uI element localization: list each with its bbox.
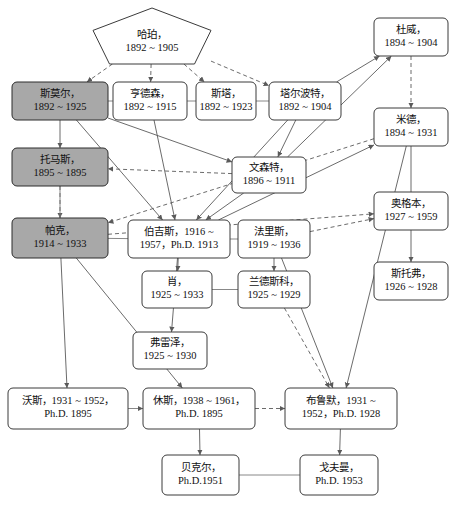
- node-label-starr-line2: 1892 ~ 1923: [200, 101, 253, 112]
- lineage-diagram: 哈珀，1892 ~ 1905斯莫尔，1892 ~ 1925亨德森，1892 ~ …: [0, 0, 457, 508]
- node-wirth[interactable]: 沃斯，1931 ~ 1952，Ph.D. 1895: [8, 388, 128, 429]
- node-vincent[interactable]: 文森特，1896 ~ 1911: [232, 157, 306, 193]
- node-label-faris-line2: 1919 ~ 1936: [248, 239, 301, 250]
- node-label-park-line1: 帕克，: [45, 224, 75, 236]
- node-label-talbot-line2: 1892 ~ 1904: [279, 101, 333, 112]
- node-talbot[interactable]: 塔尔波特，1892 ~ 1904: [269, 82, 341, 120]
- node-label-blumer-line2: 1952，Ph.D. 1928: [302, 408, 381, 419]
- node-label-henderson-line2: 1892 ~ 1915: [124, 101, 177, 112]
- node-label-stouffer-line1: 斯托弗，: [391, 267, 431, 279]
- node-label-dewey-line1: 杜威，: [396, 23, 426, 35]
- node-faris[interactable]: 法里斯，1919 ~ 1936: [238, 220, 310, 258]
- node-label-becker-line1: 贝克尔，: [181, 461, 221, 473]
- node-haper[interactable]: 哈珀，1892 ~ 1905: [93, 8, 211, 64]
- node-starr[interactable]: 斯塔，1892 ~ 1923: [196, 82, 256, 120]
- node-label-thomas-line2: 1895 ~ 1895: [34, 167, 87, 178]
- edge-haper-to-henderson: [151, 64, 152, 82]
- node-label-shaw-line1: 肖，: [167, 275, 187, 287]
- node-layer: 哈珀，1892 ~ 1905斯莫尔，1892 ~ 1925亨德森，1892 ~ …: [8, 8, 448, 495]
- node-label-dewey-line2: 1894 ~ 1904: [385, 37, 439, 48]
- node-blumer[interactable]: 布鲁默，1931 ~1952，Ph.D. 1928: [285, 388, 397, 429]
- node-label-haper-line1: 哈珀，: [137, 28, 167, 40]
- node-landesco[interactable]: 兰德斯科，1925 ~ 1929: [238, 271, 310, 308]
- edge-haper-to-starr: [184, 64, 205, 82]
- node-label-wirth-line2: Ph.D. 1895: [44, 408, 92, 419]
- node-label-small-line2: 1892 ~ 1925: [34, 101, 87, 112]
- node-mead[interactable]: 米德，1894 ~ 1931: [374, 108, 448, 146]
- node-label-haper-line2: 1892 ~ 1905: [126, 42, 179, 53]
- edge-talbot-to-dewey: [337, 56, 380, 82]
- node-ogburn[interactable]: 奥格本，1927 ~ 1959: [374, 192, 448, 230]
- node-label-mead-line2: 1894 ~ 1931: [385, 127, 438, 138]
- edge-haper-to-small: [87, 64, 113, 82]
- edge-hughes-to-becker: [200, 429, 201, 455]
- node-label-frazier-line1: 弗雷泽，: [150, 336, 190, 348]
- node-dewey[interactable]: 杜威，1894 ~ 1904: [374, 18, 448, 56]
- node-label-stouffer-line2: 1926 ~ 1928: [385, 281, 438, 292]
- node-label-ogburn-line1: 奥格本，: [391, 197, 431, 209]
- node-label-burgess-line2: 1957，Ph.D. 1913: [140, 239, 219, 250]
- node-shaw[interactable]: 肖，1925 ~ 1933: [142, 271, 212, 308]
- node-label-ogburn-line2: 1927 ~ 1959: [385, 211, 438, 222]
- node-label-faris-line1: 法里斯，: [254, 225, 294, 237]
- node-label-henderson-line1: 亨德森，: [130, 87, 170, 99]
- node-small[interactable]: 斯莫尔，1892 ~ 1925: [12, 82, 108, 120]
- node-label-hughes-line1: 休斯，1938 ~ 1961，: [153, 394, 246, 406]
- node-label-landesco-line2: 1925 ~ 1929: [248, 289, 301, 300]
- node-hughes[interactable]: 休斯，1938 ~ 1961，Ph.D. 1895: [143, 388, 255, 429]
- node-label-wirth-line1: 沃斯，1931 ~ 1952，: [22, 394, 115, 406]
- node-label-hughes-line2: Ph.D. 1895: [175, 408, 223, 419]
- node-label-blumer-line1: 布鲁默，1931 ~: [306, 394, 376, 406]
- node-label-burgess-line1: 伯吉斯，1916 ~: [144, 225, 214, 237]
- node-thomas[interactable]: 托马斯，1895 ~ 1895: [12, 148, 108, 186]
- edge-vincent-to-burgess: [206, 193, 244, 220]
- node-stouffer[interactable]: 斯托弗，1926 ~ 1928: [374, 262, 448, 300]
- node-label-talbot-line1: 塔尔波特，: [280, 87, 330, 99]
- node-label-becker-line2: Ph.D.1951: [178, 475, 223, 486]
- node-park[interactable]: 帕克，1914 ~ 1933: [12, 218, 108, 258]
- node-label-vincent-line1: 文森特，: [249, 161, 289, 173]
- edge-small-to-vincent: [108, 118, 232, 162]
- node-goffman[interactable]: 戈夫曼，Ph.D. 1953: [300, 455, 378, 495]
- node-burgess[interactable]: 伯吉斯，1916 ~1957，Ph.D. 1913: [128, 220, 230, 258]
- node-label-thomas-line1: 托马斯，: [40, 153, 80, 165]
- edge-faris-to-ogburn: [310, 219, 374, 232]
- node-label-vincent-line2: 1896 ~ 1911: [243, 175, 296, 186]
- diagram-canvas: 哈珀，1892 ~ 1905斯莫尔，1892 ~ 1925亨德森，1892 ~ …: [0, 0, 457, 508]
- node-label-goffman-line1: 戈夫曼，: [319, 461, 359, 473]
- node-label-starr-line1: 斯塔，: [211, 87, 241, 99]
- node-frazier[interactable]: 弗雷泽，1925 ~ 1930: [133, 332, 207, 369]
- node-label-small-line1: 斯莫尔，: [40, 87, 80, 99]
- node-label-goffman-line2: Ph.D. 1953: [315, 475, 363, 486]
- node-label-mead-line1: 米德，: [396, 113, 426, 125]
- node-henderson[interactable]: 亨德森，1892 ~ 1915: [113, 82, 187, 120]
- node-label-frazier-line2: 1925 ~ 1930: [144, 350, 197, 361]
- edge-park-to-wirth: [61, 258, 67, 388]
- edge-blumer-to-goffman: [340, 429, 341, 455]
- edge-landesco-to-blumer: [284, 308, 329, 388]
- node-label-shaw-line2: 1925 ~ 1933: [151, 289, 204, 300]
- node-becker[interactable]: 贝克尔，Ph.D.1951: [162, 455, 239, 495]
- node-label-landesco-line1: 兰德斯科，: [249, 275, 299, 287]
- node-label-park-line2: 1914 ~ 1933: [34, 238, 87, 249]
- edge-vincent-to-thomas: [108, 169, 232, 174]
